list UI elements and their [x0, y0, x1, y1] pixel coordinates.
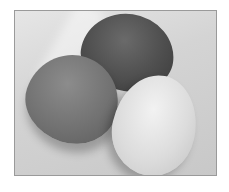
- eggs-photo: [14, 10, 217, 176]
